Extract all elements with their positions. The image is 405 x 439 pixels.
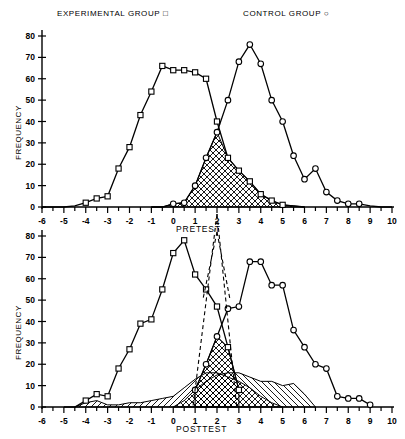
data-point-square-marker (236, 168, 241, 173)
x-tick-label: -3 (104, 416, 112, 426)
data-point-circle-marker (335, 394, 341, 400)
data-point-square-marker (94, 392, 99, 397)
x-tick-label: 3 (237, 216, 242, 226)
data-point-circle-marker (203, 155, 209, 161)
x-tick-label: 9 (368, 416, 373, 426)
legend-experimental-group: EXPERIMENTAL GROUP □ (57, 9, 168, 18)
x-tick-label: -1 (148, 216, 156, 226)
data-point-circle-marker (291, 153, 297, 159)
x-tick-label: -4 (82, 416, 90, 426)
data-point-circle-marker (280, 282, 286, 288)
data-point-circle-marker (356, 201, 362, 207)
y-tick-label: 80 (26, 231, 36, 241)
data-point-square-marker (83, 398, 88, 403)
data-point-square-marker (280, 202, 285, 207)
data-point-square-marker (116, 166, 121, 171)
x-tick-label: 6 (302, 416, 307, 426)
data-point-square-marker (127, 145, 132, 150)
y-tick-label: 0 (30, 202, 35, 212)
x-axis-title-pretest: PRETEST (176, 224, 221, 234)
data-point-square-marker (171, 68, 176, 73)
data-point-square-marker (182, 238, 187, 243)
data-point-circle-marker (291, 327, 297, 333)
data-point-circle-marker (258, 259, 264, 265)
data-point-square-marker (160, 287, 165, 292)
y-tick-label: 20 (26, 159, 36, 169)
data-point-circle-marker (324, 189, 330, 195)
data-point-square-marker (203, 76, 208, 81)
figure-container: EXPERIMENTAL GROUP □ CONTROL GROUP ○ FRE… (0, 0, 405, 439)
y-tick-label: 60 (26, 274, 36, 284)
x-tick-label: -3 (104, 216, 112, 226)
y-tick-label: 70 (26, 52, 36, 62)
data-point-circle-marker (302, 344, 308, 350)
data-point-square-marker (94, 196, 99, 201)
data-point-square-marker (214, 304, 219, 309)
data-point-square-marker (160, 63, 165, 68)
y-tick-label: 30 (26, 338, 36, 348)
y-tick-label: 10 (26, 181, 36, 191)
data-point-circle-marker (269, 97, 275, 103)
y-tick-label: 0 (30, 402, 35, 412)
x-tick-label: 10 (387, 416, 397, 426)
data-point-square-marker (193, 272, 198, 277)
x-tick-label: 6 (302, 216, 307, 226)
y-tick-label: 70 (26, 252, 36, 262)
x-tick-label: 8 (346, 416, 351, 426)
series-line-circle (151, 45, 392, 207)
x-tick-label: 4 (258, 416, 263, 426)
data-point-square-marker (149, 89, 154, 94)
y-tick-label: 40 (26, 117, 36, 127)
data-point-circle-marker (170, 201, 176, 207)
y-tick-label: 50 (26, 295, 36, 305)
x-tick-label: 5 (280, 416, 285, 426)
data-point-square-marker (193, 70, 198, 75)
data-point-circle-marker (313, 361, 319, 367)
y-axis-title-top: FREQUENCY (14, 105, 23, 160)
data-point-square-marker (182, 68, 187, 73)
x-tick-label: 7 (324, 416, 329, 426)
data-point-square-marker (214, 119, 219, 124)
data-point-circle-marker (335, 198, 341, 204)
x-tick-label: -5 (60, 416, 68, 426)
x-tick-label: 3 (237, 416, 242, 426)
data-point-square-marker (258, 192, 263, 197)
y-tick-label: 40 (26, 317, 36, 327)
plot-svg: -6-5-4-3-2-10123456789100102030405060708… (0, 0, 405, 439)
data-point-circle-marker (345, 201, 351, 207)
x-tick-label: -6 (38, 216, 46, 226)
data-point-circle-marker (236, 304, 242, 310)
data-point-square-marker (225, 345, 230, 350)
data-point-circle-marker (302, 176, 308, 182)
x-tick-label: 9 (368, 216, 373, 226)
circle-marker-icon: ○ (324, 9, 329, 18)
data-point-square-marker (105, 194, 110, 199)
y-tick-label: 10 (26, 381, 36, 391)
square-marker-icon: □ (163, 9, 168, 18)
x-tick-label: -6 (38, 416, 46, 426)
y-axis-title-bottom: FREQUENCY (14, 305, 23, 360)
series-line-square (42, 66, 305, 207)
legend-experimental-label: EXPERIMENTAL GROUP (57, 9, 160, 18)
panel-top: -6-5-4-3-2-10123456789100102030405060708… (26, 30, 397, 226)
data-point-circle-marker (367, 402, 373, 408)
data-point-circle-marker (181, 200, 187, 206)
overlap-crosshatch-region (151, 132, 304, 207)
data-point-circle-marker (247, 259, 253, 265)
data-point-circle-marker (214, 334, 220, 340)
x-axis-title-posttest: POSTTEST (176, 424, 227, 434)
data-point-square-marker (127, 347, 132, 352)
pretest-projection-dashed-line (217, 232, 230, 300)
x-tick-label: 7 (324, 216, 329, 226)
data-point-square-marker (247, 179, 252, 184)
data-point-square-marker (225, 155, 230, 160)
x-tick-label: 8 (346, 216, 351, 226)
data-point-circle-marker (345, 396, 351, 402)
data-point-square-marker (138, 321, 143, 326)
data-point-square-marker (269, 198, 274, 203)
y-tick-label: 50 (26, 95, 36, 105)
legend-control-group: CONTROL GROUP ○ (243, 9, 329, 18)
x-tick-label: -2 (126, 416, 134, 426)
data-point-circle-marker (214, 129, 220, 135)
pretest-projection-dashed-line (203, 232, 217, 300)
